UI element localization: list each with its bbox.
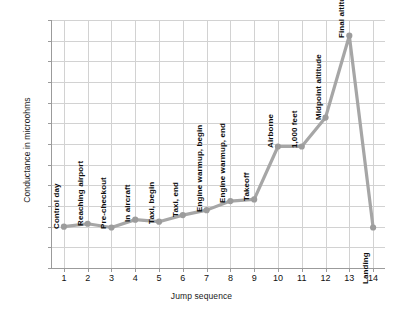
data-point [299, 143, 305, 149]
x-tick-label: 13 [337, 273, 361, 283]
point-label: Final altitude [337, 0, 346, 38]
y-tick-mark [48, 268, 52, 269]
data-point [108, 224, 114, 230]
point-label: Taxi, end [171, 182, 180, 217]
point-label: Takeoff [242, 173, 251, 202]
data-point [156, 219, 162, 225]
data-point [204, 207, 210, 213]
plot-area: 051015202530354045505560 123456789101112… [51, 20, 385, 269]
data-point [275, 143, 281, 149]
data-point [346, 33, 352, 39]
x-tick-mark [302, 268, 303, 272]
x-tick-mark [278, 268, 279, 272]
x-tick-label: 7 [195, 273, 219, 283]
x-tick-mark [64, 268, 65, 272]
x-tick-label: 12 [314, 273, 338, 283]
point-label: 1,000 feet [290, 111, 299, 148]
x-tick-mark [111, 268, 112, 272]
x-tick-label: 9 [242, 273, 266, 283]
data-point [227, 198, 233, 204]
point-label: Reaching airport [76, 161, 85, 226]
x-tick-mark [135, 268, 136, 272]
x-tick-label: 4 [123, 273, 147, 283]
point-label: Midpoint altitude [314, 54, 323, 120]
x-tick-mark [349, 268, 350, 272]
data-point [370, 224, 376, 230]
data-point [85, 221, 91, 227]
data-point [322, 114, 328, 120]
data-point [132, 217, 138, 223]
x-tick-mark [88, 268, 89, 272]
x-tick-mark [326, 268, 327, 272]
point-label: Landing [361, 253, 370, 285]
x-tick-mark [183, 268, 184, 272]
y-axis-title: Conductance in microohms [22, 70, 32, 230]
x-tick-label: 1 [52, 273, 76, 283]
data-point [251, 196, 257, 202]
x-tick-label: 6 [171, 273, 195, 283]
point-label: Engine warmup, end [218, 123, 227, 203]
x-tick-mark [159, 268, 160, 272]
point-label: Control day [52, 183, 61, 229]
x-tick-mark [254, 268, 255, 272]
point-label: Engine warmup, begin [195, 125, 204, 212]
x-tick-label: 11 [290, 273, 314, 283]
point-label: Taxi, begin [147, 181, 156, 223]
data-point [180, 212, 186, 218]
x-tick-label: 2 [76, 273, 100, 283]
x-tick-label: 8 [218, 273, 242, 283]
x-tick-label: 5 [147, 273, 171, 283]
x-tick-mark [207, 268, 208, 272]
x-tick-label: 10 [266, 273, 290, 283]
data-point [61, 224, 67, 230]
x-tick-mark [373, 268, 374, 272]
point-label: Pre-checkout [99, 178, 108, 230]
point-label: Airborne [266, 114, 275, 148]
x-tick-mark [230, 268, 231, 272]
x-axis-title: Jump sequence [0, 291, 403, 301]
x-tick-label: 3 [99, 273, 123, 283]
point-label: In aircraft [123, 184, 132, 222]
line-chart: Conductance in microohms Jump sequence 0… [0, 0, 403, 313]
